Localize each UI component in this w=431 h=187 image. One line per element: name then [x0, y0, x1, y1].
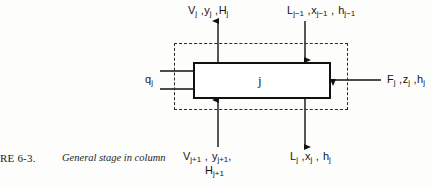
label-feed: Fj ,zj ,hj	[387, 73, 425, 87]
figure-canvas: j Vj ,yj ,Hj Lj−1 ,xj−1 , hj−1 qj Fj ,zj…	[0, 0, 431, 187]
stage-number-label: j	[258, 73, 262, 89]
label-vapor-in: Vj+1 , yj+1, Hj+1	[183, 150, 231, 178]
label-vapor-out: Vj ,yj ,Hj	[188, 4, 228, 18]
stage-box	[193, 62, 331, 99]
label-liquid-in: Lj−1 ,xj−1 , hj−1	[287, 4, 355, 18]
label-vapor-in-line2: Hj+1	[205, 164, 224, 178]
label-vapor-in-line1: Vj+1 , yj+1,	[183, 150, 231, 162]
figure-number: RE 6-3.	[0, 152, 36, 164]
label-liquid-out: Lj ,xj , hj	[290, 150, 331, 164]
label-heat-duty: qj	[145, 73, 153, 87]
figure-caption-text: General stage in column	[62, 152, 177, 164]
figure-caption: RE 6-3. General stage in column	[0, 152, 180, 187]
